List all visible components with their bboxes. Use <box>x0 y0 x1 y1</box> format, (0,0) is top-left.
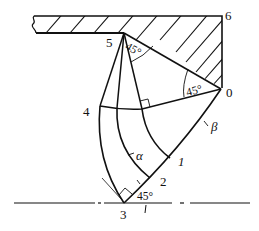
tick-mark-2 <box>137 180 140 184</box>
alpha-label: α <box>136 148 144 163</box>
right-angle-mark-3 <box>119 188 132 195</box>
point-label-4: 4 <box>83 104 90 119</box>
beta-tick <box>204 121 208 126</box>
point-label-2: 2 <box>160 174 167 189</box>
slip-line-field-diagram: 6 5 0 4 1 2 3 45° 45° 45° α β <box>0 0 259 231</box>
line-5-0 <box>124 33 221 89</box>
point-label-6: 6 <box>225 8 232 23</box>
point-label-1: 1 <box>178 154 185 169</box>
angle-label-3: 45° <box>137 190 154 202</box>
angle-label-0: 45° <box>185 82 204 98</box>
beta-label: β <box>210 119 218 134</box>
point-label-5: 5 <box>106 35 113 50</box>
point-label-0: 0 <box>226 85 233 100</box>
tick-mark-3 <box>145 205 146 213</box>
point-label-3: 3 <box>120 207 127 222</box>
